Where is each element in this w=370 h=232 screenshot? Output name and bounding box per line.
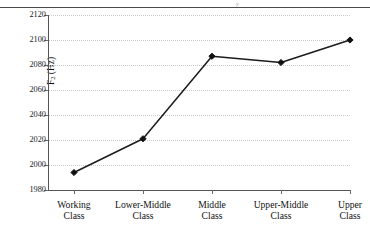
figure-root: y F2 (Hz) 198020002020204020602080210021… [0,0,370,232]
data-point-marker [278,59,284,65]
y-tick-label: 2060 [6,86,46,94]
y-tick-label: 2100 [6,36,46,44]
x-tick-label: Upper Class [304,199,370,222]
x-tick [212,190,213,194]
plot-area: F2 (Hz) 19802000202020402060208021002120… [48,15,350,190]
x-tick [74,190,75,194]
y-tick-label: 2040 [6,111,46,119]
data-point-marker [347,37,353,43]
y-tick-label: 1980 [6,186,46,194]
page-divider-rule [0,7,370,8]
y-tick-label: 2020 [6,136,46,144]
caption-descender-fragment: y [236,1,246,7]
x-tick [143,190,144,194]
y-tick-label: 2080 [6,61,46,69]
x-tick [281,190,282,194]
series-markers [71,37,353,176]
data-series-line [48,15,350,190]
y-tick-label: 2000 [6,161,46,169]
data-point-marker [71,169,77,175]
x-axis-spine [48,190,350,191]
x-tick [350,190,351,194]
y-tick-label: 2120 [6,11,46,19]
